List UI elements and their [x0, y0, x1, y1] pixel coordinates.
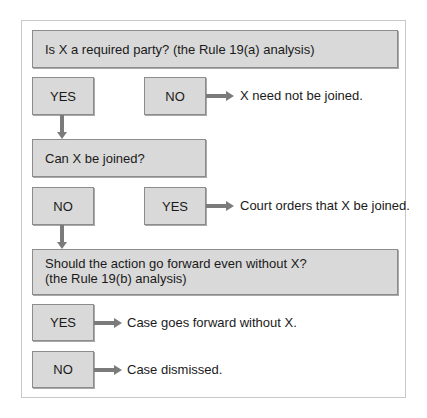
- right-arrow-icon: [94, 368, 114, 372]
- answer-no-go-forward: NO: [32, 351, 94, 388]
- answer-no-label: NO: [53, 199, 73, 214]
- outcome-case-dismissed: Case dismissed.: [127, 362, 222, 377]
- question-go-forward-line1: Should the action go forward even withou…: [45, 256, 397, 271]
- answer-yes-can-join: YES: [144, 187, 206, 225]
- answer-no-cannot-join: NO: [32, 187, 94, 225]
- down-arrow-icon: [60, 225, 64, 242]
- outcome-court-orders-join: Court orders that X be joined.: [240, 198, 410, 213]
- question-go-forward-line2: (the Rule 19(b) analysis): [45, 271, 397, 286]
- answer-no-label: NO: [53, 362, 73, 377]
- answer-no-label: NO: [165, 89, 185, 104]
- right-arrow-icon: [94, 321, 114, 325]
- answer-yes-label: YES: [50, 89, 76, 104]
- question-required-party-text: Is X a required party? (the Rule 19(a) a…: [45, 42, 315, 57]
- question-can-be-joined: Can X be joined?: [32, 139, 206, 177]
- answer-yes-label: YES: [50, 315, 76, 330]
- right-arrow-icon: [206, 204, 226, 208]
- down-arrow-icon: [60, 115, 64, 132]
- outcome-case-goes-forward: Case goes forward without X.: [127, 315, 297, 330]
- answer-yes-go-forward: YES: [32, 304, 94, 341]
- answer-yes-label: YES: [162, 199, 188, 214]
- question-go-forward: Should the action go forward even withou…: [32, 249, 398, 295]
- right-arrow-icon: [206, 94, 226, 98]
- question-can-be-joined-text: Can X be joined?: [45, 151, 145, 166]
- answer-no-required: NO: [144, 77, 206, 115]
- question-required-party: Is X a required party? (the Rule 19(a) a…: [32, 30, 398, 68]
- answer-yes-required: YES: [32, 77, 94, 115]
- outcome-need-not-join: X need not be joined.: [240, 88, 363, 103]
